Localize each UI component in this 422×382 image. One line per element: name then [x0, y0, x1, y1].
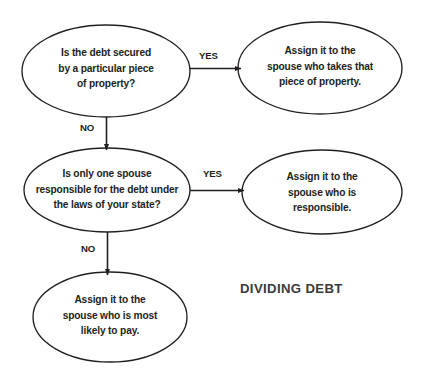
edge-label-no-q1: NO — [80, 122, 94, 133]
diagram-title: DIVIDING DEBT — [240, 281, 343, 296]
node-ellipse-q2 — [24, 148, 190, 232]
node-ellipse-a2 — [242, 150, 402, 234]
edge-label-no-q2: NO — [81, 243, 95, 254]
node-ellipse-a3 — [33, 272, 187, 362]
edge-label-yes-q2: YES — [203, 168, 222, 179]
node-ellipse-a1 — [238, 22, 402, 114]
dividing-debt-flowchart: Is the debt secured by a particular piec… — [0, 0, 422, 382]
edge-label-yes-q1: YES — [199, 50, 218, 61]
node-ellipse-q1 — [22, 25, 190, 117]
